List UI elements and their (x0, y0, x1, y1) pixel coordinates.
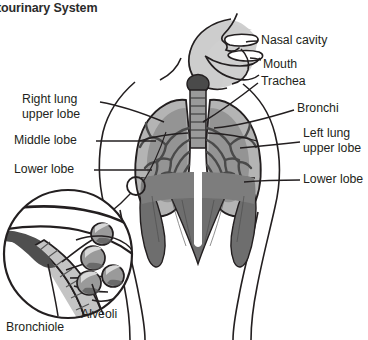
label-right-lower-lobe: Lower lobe (14, 162, 74, 177)
label-left-lung-upper-lobe-line2: upper lobe (303, 141, 361, 156)
label-nasal-cavity: Nasal cavity (261, 33, 327, 48)
label-bronchi: Bronchi (297, 101, 339, 116)
label-trachea: Trachea (261, 74, 306, 89)
label-left-lung-upper-lobe: Left lung upper lobe (303, 126, 361, 155)
label-bronchiole: Bronchiole (6, 320, 64, 335)
label-mouth: Mouth (263, 57, 297, 72)
label-left-lower-lobe: Lower lobe (303, 172, 363, 187)
diaphragm (140, 172, 256, 267)
alveoli-inset (0, 190, 154, 340)
trachea (190, 90, 206, 148)
label-right-lung-upper-lobe: Right lung upper lobe (22, 92, 80, 121)
label-left-lung-upper-lobe-line1: Left lung (303, 126, 361, 141)
diagram-page: nitourinary System (0, 0, 368, 340)
label-alveoli: Alveoli (81, 307, 117, 322)
label-right-lung-upper-lobe-line2: upper lobe (22, 107, 80, 122)
label-right-lung-upper-lobe-line1: Right lung (22, 92, 80, 107)
label-middle-lobe: Middle lobe (14, 133, 77, 148)
